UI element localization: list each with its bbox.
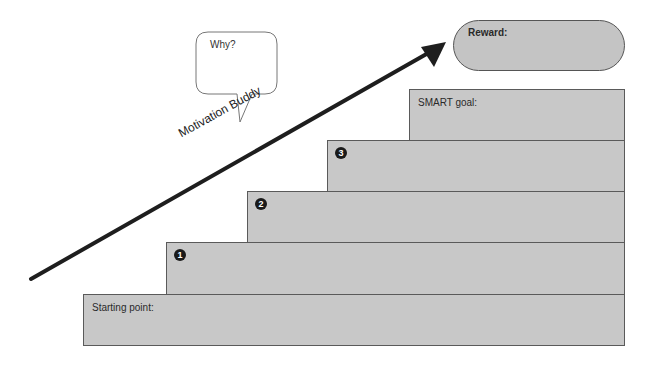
- step-2[interactable]: 2: [247, 191, 625, 243]
- step-number-badge: 3: [335, 147, 347, 159]
- reward-box[interactable]: Reward:: [453, 20, 625, 71]
- reward-label: Reward:: [468, 27, 507, 38]
- smart-goal-label: SMART goal:: [418, 97, 477, 108]
- step-starting-point[interactable]: Starting point:: [83, 294, 625, 346]
- starting-point-label: Starting point:: [92, 302, 154, 313]
- step-number-badge: 2: [255, 198, 267, 210]
- step-smart-goal[interactable]: SMART goal:: [409, 89, 625, 141]
- speech-bubble-text: Why?: [210, 39, 236, 50]
- step-3[interactable]: 3: [327, 140, 625, 192]
- step-number-badge: 1: [174, 249, 186, 261]
- step-1[interactable]: 1: [166, 242, 625, 295]
